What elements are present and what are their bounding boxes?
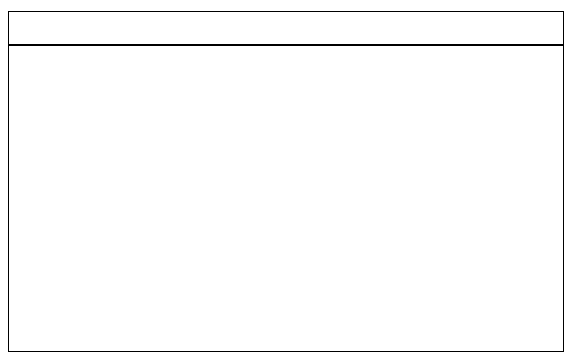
figure-root: Fort Hall (1) Sheep Creek (2) Swift Cree… xyxy=(0,0,572,363)
figure-border xyxy=(8,11,564,352)
header-separator xyxy=(9,44,563,46)
